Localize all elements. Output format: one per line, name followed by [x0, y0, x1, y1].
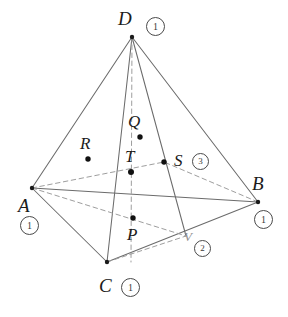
edge-D-A: [32, 37, 132, 188]
vertex-label-C: C: [99, 276, 112, 295]
badge-A: 1: [20, 216, 39, 235]
vertex-label-A: A: [18, 196, 30, 215]
badge-S: 3: [192, 153, 209, 170]
vertex-dots: [30, 35, 260, 264]
edge-D-B: [132, 37, 258, 202]
vertex-dot-B: [256, 200, 260, 204]
point-dot-T: [128, 169, 134, 175]
vertex-dot-A: [30, 186, 34, 190]
point-label-P: P: [127, 226, 137, 243]
badge-C: 1: [121, 278, 140, 297]
point-label-V: V: [184, 230, 192, 243]
point-dot-Q: [137, 134, 142, 139]
point-dot-R: [85, 156, 90, 161]
hidden-edge-C-V: [107, 236, 186, 262]
badge-V: 2: [194, 240, 211, 257]
edge-A-C: [32, 188, 107, 262]
tetrahedron-figure: [0, 0, 288, 317]
point-label-T: T: [125, 148, 134, 165]
badge-B: 1: [254, 210, 273, 229]
point-label-S: S: [174, 152, 183, 169]
hidden-edge-A-back-B: [32, 162, 258, 202]
edge-A-B: [32, 188, 258, 202]
vertex-dot-D: [130, 35, 134, 39]
badge-D: 1: [146, 17, 165, 36]
vertex-label-D: D: [118, 9, 132, 28]
point-dot-P: [130, 215, 135, 220]
point-label-R: R: [80, 135, 90, 152]
vertex-dot-C: [105, 260, 109, 264]
vertex-label-B: B: [252, 174, 264, 193]
point-label-Q: Q: [128, 113, 140, 130]
cevian-A-V: [32, 188, 186, 236]
point-dot-S: [161, 159, 166, 164]
